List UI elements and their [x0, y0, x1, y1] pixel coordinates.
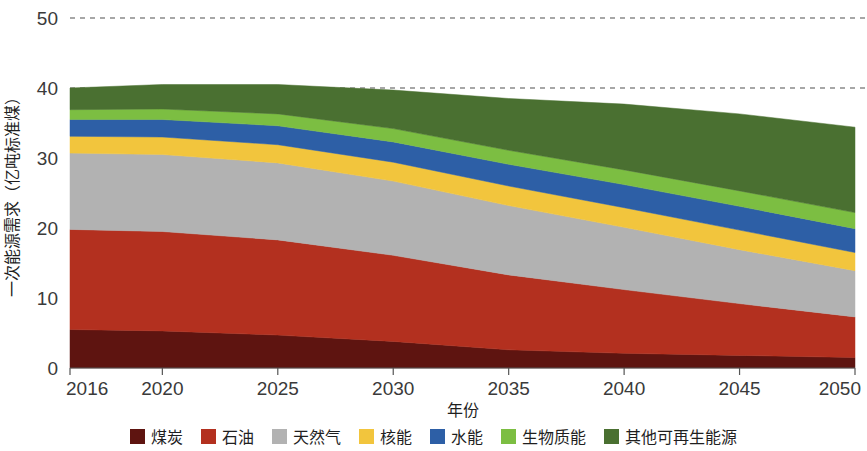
x-axis-tick-labels: 20162020202520302035204020452050 — [66, 378, 861, 399]
axis-lines — [70, 368, 855, 375]
y-tick-label: 20 — [37, 218, 58, 239]
chart-legend: 煤炭石油天然气核能水能生物质能其他可再生能源 — [0, 424, 867, 448]
legend-swatch-icon — [430, 429, 445, 444]
legend-item[interactable]: 天然气 — [272, 424, 341, 448]
x-tick-label: 2045 — [718, 378, 760, 399]
legend-item[interactable]: 石油 — [201, 424, 254, 448]
x-tick-label: 2025 — [257, 378, 299, 399]
legend-item-label: 生物质能 — [522, 424, 586, 448]
legend-swatch-icon — [130, 429, 145, 444]
x-tick-label: 2016 — [66, 378, 108, 399]
legend-item[interactable]: 煤炭 — [130, 424, 183, 448]
x-tick-label: 2040 — [603, 378, 645, 399]
legend-item-label: 石油 — [222, 424, 254, 448]
x-tick-label: 2035 — [488, 378, 530, 399]
y-tick-label: 30 — [37, 148, 58, 169]
chart-page: 01020304050 2016202020252030203520402045… — [0, 0, 867, 451]
x-tick-label: 2050 — [819, 378, 861, 399]
y-tick-label: 50 — [37, 8, 58, 29]
legend-item[interactable]: 其他可再生能源 — [604, 424, 737, 448]
legend-item-label: 水能 — [451, 424, 483, 448]
x-tick-label: 2030 — [372, 378, 414, 399]
stacked-area-chart: 01020304050 2016202020252030203520402045… — [0, 0, 867, 451]
x-tick-label: 2020 — [141, 378, 183, 399]
legend-item-label: 其他可再生能源 — [625, 424, 737, 448]
legend-item[interactable]: 水能 — [430, 424, 483, 448]
x-axis-title: 年份 — [447, 402, 479, 419]
y-tick-label: 40 — [37, 78, 58, 99]
y-tick-label: 10 — [37, 288, 58, 309]
legend-swatch-icon — [359, 429, 374, 444]
area-stack — [70, 85, 855, 369]
legend-swatch-icon — [501, 429, 516, 444]
y-axis-title-text: 一次能源需求（亿吨标准煤） — [4, 89, 21, 297]
legend-item-label: 煤炭 — [151, 424, 183, 448]
y-tick-label: 0 — [47, 358, 58, 379]
legend-item-label: 核能 — [380, 424, 412, 448]
grid-lines — [70, 18, 867, 88]
legend-swatch-icon — [604, 429, 619, 444]
y-axis-title: 一次能源需求（亿吨标准煤） — [4, 89, 21, 297]
legend-swatch-icon — [201, 429, 216, 444]
legend-swatch-icon — [272, 429, 287, 444]
legend-item[interactable]: 核能 — [359, 424, 412, 448]
legend-item-label: 天然气 — [293, 424, 341, 448]
x-axis-title-text: 年份 — [447, 402, 479, 419]
legend-item[interactable]: 生物质能 — [501, 424, 586, 448]
y-axis-tick-labels: 01020304050 — [37, 8, 58, 379]
